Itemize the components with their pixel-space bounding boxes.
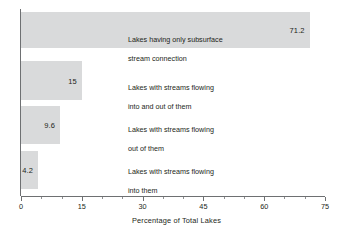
x-tick-label: 30 [139,202,147,211]
x-tick-major [325,197,326,201]
x-tick-minor [284,197,285,199]
bar-row[interactable]: 15 [21,61,82,100]
x-tick-major [143,197,144,201]
x-tick-major [264,197,265,201]
category-label-line1: Lakes having only subsurface [128,35,223,44]
category-label-line1: Lakes with streams flowing [128,167,214,176]
x-tick-label: 60 [260,202,268,211]
bar-value-label: 4.2 [22,166,33,175]
x-tick-major [203,197,204,201]
x-tick-minor [183,197,184,199]
x-tick-minor [224,197,225,199]
category-label-line2: stream connection [128,54,187,63]
bar-value-label: 9.6 [44,121,55,130]
bar-value-label: 15 [68,76,77,85]
category-label-line2: into them [128,186,158,195]
bar-value-label: 71.2 [290,26,305,35]
x-tick-minor [122,197,123,199]
category-label: Lakes with streams flowing out of them [128,116,214,154]
x-axis-title: Percentage of Total Lakes [0,216,353,225]
bar-row[interactable]: 4.2 [21,151,38,189]
x-tick-minor [163,197,164,199]
category-label-line1: Lakes with streams flowing [128,125,214,134]
category-label: Lakes with streams flowing into and out … [128,74,214,112]
x-tick-label: 45 [199,202,207,211]
x-tick-label: 15 [78,202,86,211]
x-tick-minor [62,197,63,199]
x-tick-minor [244,197,245,199]
category-label-line1: Lakes with streams flowing [128,83,214,92]
category-label-line2: out of them [128,144,164,153]
x-tick-major [82,197,83,201]
bar-chart: 71.2 15 9.6 4.2 Lakes having only subsur… [0,0,353,234]
x-tick-major [21,197,22,201]
bar-row[interactable]: 9.6 [21,106,60,144]
category-label-line2: into and out of them [128,102,192,111]
category-label: Lakes having only subsurface stream conn… [128,26,223,64]
x-tick-label: 0 [19,202,23,211]
x-tick-minor [41,197,42,199]
category-label: Lakes with streams flowing into them [128,158,214,196]
x-axis-line [21,196,325,197]
x-tick-minor [102,197,103,199]
x-tick-minor [305,197,306,199]
x-tick-label: 75 [321,202,329,211]
